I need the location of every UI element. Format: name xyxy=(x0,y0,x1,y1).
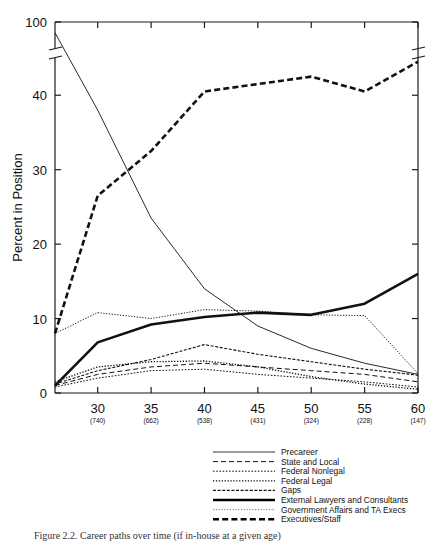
figure-container: 010203040100Percent in Position30(740)35… xyxy=(0,0,436,541)
x-tick-label: 55 xyxy=(357,401,371,416)
legend-label: Gaps xyxy=(281,485,301,495)
x-tick-label: 35 xyxy=(144,401,158,416)
x-tick-sublabel: (147) xyxy=(410,417,425,425)
series-line-federal-legal xyxy=(55,361,418,389)
axis-break-mark xyxy=(49,47,62,59)
x-tick-sublabel: (228) xyxy=(357,417,372,425)
y-axis: 010203040100 xyxy=(25,15,418,401)
series-line-federal-nonlegal xyxy=(55,369,418,387)
y-axis-title: Percent in Position xyxy=(10,153,25,261)
x-tick-sublabel: (324) xyxy=(304,417,319,425)
series-line-government-affairs-and-ta-execs xyxy=(55,310,418,374)
y-tick-label: 0 xyxy=(40,386,47,401)
x-tick-label: 45 xyxy=(251,401,265,416)
series-line-executives-staff xyxy=(55,62,418,334)
legend-label: Federal Nonlegal xyxy=(281,466,345,476)
legend: PrecareerState and LocalFederal Nonlegal… xyxy=(213,447,408,524)
x-tick-label: 50 xyxy=(304,401,318,416)
x-tick-label: 30 xyxy=(90,401,104,416)
series-group xyxy=(55,33,418,389)
x-tick-label: 40 xyxy=(197,401,211,416)
line-chart: 010203040100Percent in Position30(740)35… xyxy=(0,0,436,541)
legend-label: State and Local xyxy=(281,457,339,467)
series-line-precareer xyxy=(55,33,418,375)
x-tick-sublabel: (538) xyxy=(197,417,212,425)
y-tick-label: 30 xyxy=(33,163,47,178)
legend-label: Precareer xyxy=(281,447,318,457)
legend-label: Federal Legal xyxy=(281,476,332,486)
y-tick-label: 40 xyxy=(33,88,47,103)
y-tick-label: 100 xyxy=(25,15,47,30)
legend-label: Government Affairs and TA Execs xyxy=(281,505,406,515)
x-axis: 30(740)35(662)40(538)45(431)50(324)55(22… xyxy=(90,22,425,425)
x-tick-sublabel: (431) xyxy=(250,417,265,425)
x-tick-sublabel: (740) xyxy=(90,417,105,425)
legend-label: External Lawyers and Consultants xyxy=(281,495,408,505)
legend-label: Executives/Staff xyxy=(281,514,342,524)
x-tick-sublabel: (662) xyxy=(143,417,158,425)
x-tick-label: 60 xyxy=(411,401,425,416)
figure-caption: Figure 2.2. Career paths over time (if i… xyxy=(34,530,281,541)
series-line-gaps xyxy=(55,345,418,384)
y-tick-label: 20 xyxy=(33,237,47,252)
y-tick-label: 10 xyxy=(33,312,47,327)
